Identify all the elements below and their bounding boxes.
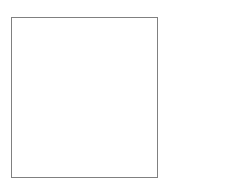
empty-panel-content xyxy=(12,18,157,177)
empty-panel[interactable] xyxy=(11,17,158,178)
page-canvas xyxy=(0,0,246,185)
